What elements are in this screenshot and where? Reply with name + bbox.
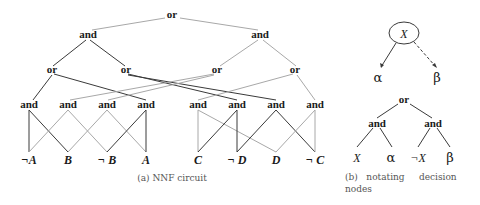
decision-and-left: and xyxy=(368,117,386,129)
decision-leaf-x: X xyxy=(352,151,361,165)
nnf-or-3: or xyxy=(212,63,223,75)
leaf-not-b: ¬ B xyxy=(98,153,116,167)
decision-node-diagram xyxy=(380,22,437,68)
decision-or: or xyxy=(399,93,410,105)
decision-beta: β xyxy=(433,70,441,85)
nnf-root-or: or xyxy=(167,8,178,20)
nnf-and-1: and xyxy=(20,98,38,110)
leaf-c: C xyxy=(194,153,203,167)
leaf-not-d: ¬ D xyxy=(228,153,247,167)
nnf-and-4: and xyxy=(137,98,155,110)
decision-leaf-beta: β xyxy=(446,150,454,165)
caption-b-line1: (b) notating decision xyxy=(345,172,457,182)
caption-a: (a) NNF circuit xyxy=(137,173,207,183)
decision-and-right: and xyxy=(424,117,442,129)
low-edge-dashed xyxy=(414,42,436,67)
leaf-not-c: ¬ C xyxy=(306,153,325,167)
decision-var-x: X xyxy=(399,27,408,41)
leaf-a: A xyxy=(141,153,150,167)
nnf-and-8: and xyxy=(306,98,324,110)
nnf-and-5: and xyxy=(189,98,207,110)
nnf-or-1: or xyxy=(47,63,58,75)
nnf-and-2: and xyxy=(59,98,77,110)
nnf-edges xyxy=(29,18,315,152)
decision-leaf-alpha: α xyxy=(387,150,396,165)
leaf-d: D xyxy=(271,153,281,167)
nnf-or-2: or xyxy=(121,63,132,75)
nnf-and-7: and xyxy=(267,98,285,110)
decision-leaf-not-x: ¬X xyxy=(410,151,426,165)
figure-canvas: or and and or or or or and and and and a… xyxy=(0,0,480,205)
high-edge xyxy=(381,43,396,67)
leaf-b: B xyxy=(63,153,72,167)
nnf-or-4: or xyxy=(290,63,301,75)
nnf-and-left: and xyxy=(79,28,97,40)
nnf-and-3: and xyxy=(98,98,116,110)
nnf-and-right: and xyxy=(251,28,269,40)
leaf-not-a: ¬A xyxy=(21,153,36,167)
caption-b-line2: nodes xyxy=(345,184,372,194)
low-arrow-icon xyxy=(432,63,437,68)
nnf-and-6: and xyxy=(228,98,246,110)
decision-alpha: α xyxy=(374,70,383,85)
